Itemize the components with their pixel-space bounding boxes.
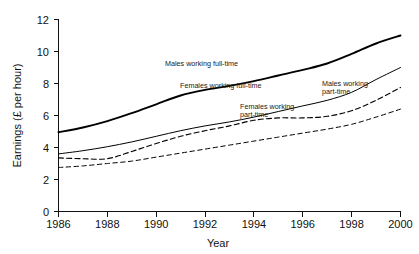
- x-tick-label-1998: 1998: [339, 218, 363, 230]
- annotation-males-full-time: Males working full-time: [165, 59, 238, 68]
- annotation-females-full-time: Females working full-time: [180, 81, 261, 90]
- y-tick-label-4: 4: [43, 142, 49, 154]
- annotation-males-full-time-line-1: Males working full-time: [165, 59, 238, 68]
- x-tick-label-1986: 1986: [46, 218, 70, 230]
- annotation-females-full-time-line-1: Females working full-time: [180, 81, 261, 90]
- chart-background: [0, 0, 419, 254]
- x-tick-label-1994: 1994: [242, 218, 266, 230]
- annotation-males-part-time-line-2: part-time: [322, 87, 350, 96]
- y-tick-label-6: 6: [43, 110, 49, 122]
- line-chart: 12 10 8 6 4 2 0 Earnings (£ per hour) 19…: [0, 0, 419, 254]
- y-tick-label-0: 0: [43, 206, 49, 218]
- x-tick-label-1996: 1996: [290, 218, 314, 230]
- y-tick-label-2: 2: [43, 174, 49, 186]
- x-tick-label-1990: 1990: [144, 218, 168, 230]
- x-axis-title: Year: [207, 237, 230, 249]
- y-axis-title: Earnings (£ per hour): [11, 64, 23, 168]
- y-tick-label-10: 10: [37, 46, 49, 58]
- x-tick-label-1988: 1988: [95, 218, 119, 230]
- annotation-females-part-time-line-2: part-time: [240, 110, 268, 119]
- y-tick-label-12: 12: [37, 14, 49, 26]
- y-tick-label-8: 8: [43, 78, 49, 90]
- chart-canvas: 12 10 8 6 4 2 0 Earnings (£ per hour) 19…: [0, 0, 419, 254]
- x-tick-label-2000: 2000: [388, 218, 412, 230]
- x-tick-label-1992: 1992: [193, 218, 217, 230]
